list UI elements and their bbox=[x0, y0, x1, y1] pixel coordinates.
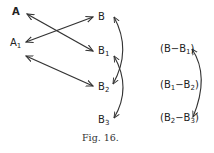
arc-B1-B3 bbox=[114, 56, 123, 118]
node-B: B bbox=[98, 12, 105, 22]
figure-16: A A1 B B1 B2 B3 (B−B1) (B1−B2) (B2−B3) F… bbox=[0, 0, 214, 153]
diagram-arrows bbox=[0, 0, 214, 153]
diff-B1-B2: (B1−B2) bbox=[160, 80, 199, 92]
node-A1: A1 bbox=[10, 38, 21, 50]
edge-A1-B bbox=[26, 17, 93, 42]
figure-caption: Fig. 16. bbox=[82, 132, 119, 143]
node-A: A bbox=[12, 7, 20, 17]
edge-A1-B2 bbox=[26, 56, 93, 86]
diff-B2-B3: (B2−B3) bbox=[160, 113, 199, 125]
edge-A-B1 bbox=[27, 14, 93, 51]
node-B2: B2 bbox=[98, 82, 109, 94]
node-B1: B1 bbox=[98, 46, 109, 58]
node-B3: B3 bbox=[98, 115, 109, 127]
diff-B-B1: (B−B1) bbox=[160, 44, 194, 56]
